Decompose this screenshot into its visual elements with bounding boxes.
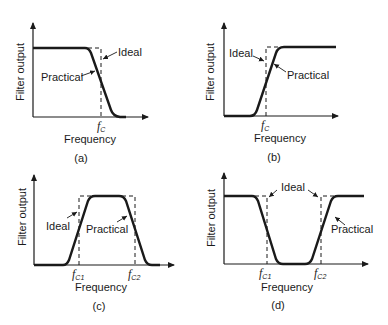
ideal-pointer [103,52,117,59]
practical-label: Practical [331,223,373,235]
cutoff-label-2: fC2 [314,266,326,280]
ideal-response-line [266,47,280,116]
cutoff-label-1: fC1 [259,266,271,280]
ideal-pointer [253,56,264,61]
ideal-pointer [67,212,77,218]
panel-b-highpass: Ideal Practical fC Frequency Filter outp… [204,23,338,163]
practical-pointer [117,216,127,222]
filter-response-figure: Ideal Practical fC Frequency Filter outp… [0,0,388,325]
panel-d-bandstop: Ideal Practical fC1 fC2 Frequency Filter… [205,173,373,311]
ideal-label: Ideal [281,181,305,193]
x-axis-label: Frequency [261,281,313,293]
cutoff-label-2: fC2 [128,267,140,281]
ideal-response-line [88,48,101,117]
y-axis-label: Filter output [14,43,26,101]
ideal-pointer-2 [308,190,318,197]
panel-caption: (b) [267,151,280,163]
panel-caption: (c) [93,300,106,312]
x-axis-label: Frequency [64,133,116,145]
cutoff-label-1: fC1 [72,267,84,281]
x-axis-label: Frequency [75,281,127,293]
ideal-label: Ideal [46,220,70,232]
ideal-label: Ideal [229,47,253,59]
y-axis-label: Filter output [16,188,28,246]
panel-a-lowpass: Ideal Practical fC Frequency Filter outp… [14,23,148,164]
ideal-pointer-1 [269,190,277,197]
practical-label: Practical [287,69,329,81]
practical-label: Practical [41,71,83,83]
cutoff-label: fC [261,118,270,132]
ideal-label: Ideal [118,46,142,58]
practical-pointer [274,64,286,72]
ideal-response-line-1 [255,196,267,264]
cutoff-label: fC [97,119,106,133]
practical-label: Practical [86,223,128,235]
x-axis-label: Frequency [254,132,306,144]
panel-c-bandpass: Ideal Practical fC1 fC2 Frequency Filter… [16,175,174,312]
y-axis-label: Filter output [205,189,217,247]
y-axis-label: Filter output [204,43,216,101]
panel-caption: (d) [271,299,284,311]
panel-caption: (a) [74,152,87,164]
